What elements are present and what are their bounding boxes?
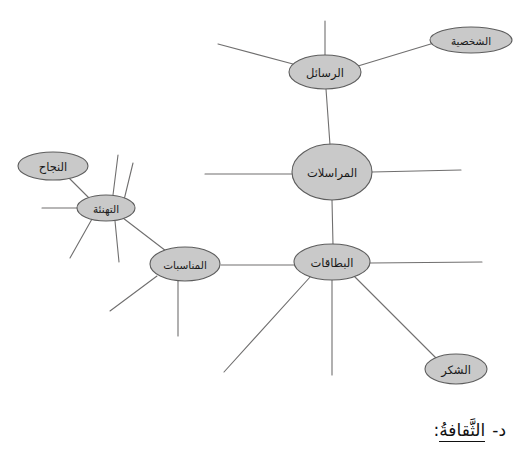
node-rasail[interactable]: الرسائل [289, 55, 361, 89]
node-tahni2a[interactable]: التهنئة [77, 195, 135, 221]
edge-bitaqat-right [370, 262, 482, 263]
edge-rasail-upper-left [218, 44, 293, 64]
node-tahni2a-label: التهنئة [93, 203, 119, 216]
node-layer: المراسلات الرسائل الشخصية البطاقات الشكر [18, 27, 512, 384]
node-munasabat-label: المناسبات [163, 259, 207, 271]
node-rasail-label: الرسائل [306, 66, 344, 81]
node-shukr-label: الشكر [440, 363, 471, 378]
node-shakhsiyya[interactable]: الشخصية [430, 27, 512, 53]
edge-tahni2a-down [115, 221, 119, 262]
edge-tahni2a-to-najah [68, 177, 89, 198]
node-munasabat[interactable]: المناسبات [150, 247, 220, 281]
edge-munasabat-to-tahni2a [123, 218, 166, 251]
edge-murasalat-to-bitaqat [332, 200, 333, 245]
node-bitaqat[interactable]: البطاقات [294, 244, 370, 280]
mind-map-diagram: المراسلات الرسائل الشخصية البطاقات الشكر [0, 0, 524, 466]
edge-bitaqat-down-left [224, 276, 311, 372]
edge-rasail-to-murasalat [326, 89, 330, 145]
node-murasalat[interactable]: المراسلات [292, 144, 372, 200]
edge-tahni2a-down-left [70, 219, 92, 258]
node-najah-label: النجاح [39, 160, 68, 174]
node-shakhsiyya-label: الشخصية [451, 35, 491, 47]
edge-tahni2a-up [113, 155, 118, 195]
caption-term: الثَّقافةُ [439, 420, 485, 442]
mind-map-canvas: المراسلات الرسائل الشخصية البطاقات الشكر [0, 0, 524, 466]
edge-tahni2a-up-right [124, 163, 133, 200]
edge-bitaqat-to-shukr [354, 276, 436, 358]
section-caption: د-الثَّقافةُ: [433, 420, 506, 440]
node-shukr[interactable]: الشكر [425, 354, 487, 384]
edge-murasalat-right [372, 170, 461, 172]
node-bitaqat-label: البطاقات [311, 256, 354, 270]
node-najah[interactable]: النجاح [18, 152, 88, 180]
caption-marker: د- [492, 420, 506, 440]
edge-rasail-to-shakhsiyya [358, 43, 434, 66]
node-murasalat-label: المراسلات [307, 166, 357, 181]
edge-munasabat-down-left [110, 276, 157, 311]
